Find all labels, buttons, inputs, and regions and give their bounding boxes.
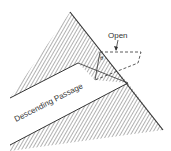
passage-diagram: Open θ Descending Passage bbox=[0, 0, 171, 151]
upper-rock-hatch bbox=[10, 12, 100, 98]
open-arrowhead bbox=[114, 46, 118, 51]
open-label: Open bbox=[108, 31, 128, 40]
diagram-canvas: Open θ Descending Passage bbox=[0, 0, 171, 151]
lower-rock-hatch bbox=[10, 83, 163, 151]
